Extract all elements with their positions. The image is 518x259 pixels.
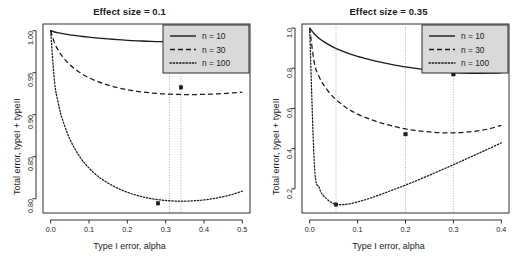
x-tick-label: 0.5 xyxy=(237,225,247,234)
x-axis-title: Type I error, alpha xyxy=(259,241,518,251)
y-tick-label: 1.00 xyxy=(26,31,35,45)
x-tick-label: 0.1 xyxy=(353,225,363,234)
legend-label: n = 10 xyxy=(202,31,226,41)
x-tick-label: 0.1 xyxy=(84,225,94,234)
y-tick-label: 1.0 xyxy=(285,28,294,38)
legend-label: n = 30 xyxy=(461,45,485,55)
minimum-point-marker xyxy=(334,203,337,206)
panel-effect-size-0-35: Effect size = 0.35 Type I error, alpha T… xyxy=(259,0,518,259)
y-tick-label: 0.90 xyxy=(26,115,35,129)
minimum-point-marker xyxy=(404,132,407,135)
y-tick-label: 0.8 xyxy=(285,68,294,78)
y-tick-label: 0.6 xyxy=(285,108,294,118)
figure-canvas: Effect size = 0.1 Type I error, alpha To… xyxy=(0,0,518,259)
x-axis-title: Type I error, alpha xyxy=(0,241,259,251)
x-tick-label: 0.3 xyxy=(161,225,171,234)
y-tick-label: 0.4 xyxy=(285,149,294,159)
y-axis-title: Total error, typeI + typeII xyxy=(12,98,22,195)
legend-label: n = 100 xyxy=(202,58,230,68)
x-tick-label: 0.2 xyxy=(122,225,132,234)
x-tick-label: 0.4 xyxy=(496,225,506,234)
x-tick-label: 0.0 xyxy=(46,225,56,234)
legend-label: n = 10 xyxy=(461,31,485,41)
y-tick-label: 0.80 xyxy=(26,199,35,213)
legend-label: n = 30 xyxy=(202,45,226,55)
y-tick-label: 0.2 xyxy=(285,189,294,199)
panel-effect-size-0-1: Effect size = 0.1 Type I error, alpha To… xyxy=(0,0,259,259)
x-tick-label: 0.4 xyxy=(199,225,209,234)
minimum-point-marker xyxy=(156,202,159,205)
legend-label: n = 100 xyxy=(461,58,489,68)
x-tick-label: 0.3 xyxy=(448,225,458,234)
y-tick-label: 0.95 xyxy=(26,73,35,87)
x-tick-label: 0.0 xyxy=(305,225,315,234)
minimum-point-marker xyxy=(179,86,182,89)
x-tick-label: 0.2 xyxy=(401,225,411,234)
y-axis-title: Total error, typeI + typeII xyxy=(271,98,281,195)
y-tick-label: 0.85 xyxy=(26,157,35,171)
